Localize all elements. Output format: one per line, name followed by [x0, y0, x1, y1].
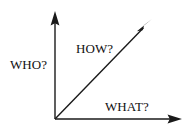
diagonal-axis-label: HOW?	[76, 41, 113, 56]
axes-diagram: WHO? HOW? WHAT?	[0, 0, 188, 130]
vertical-axis	[51, 11, 60, 119]
vertical-axis-label: WHO?	[10, 57, 47, 72]
horizontal-axis	[55, 115, 182, 124]
diagonal-axis-arrowhead	[137, 19, 152, 31]
horizontal-axis-label: WHAT?	[105, 99, 149, 114]
